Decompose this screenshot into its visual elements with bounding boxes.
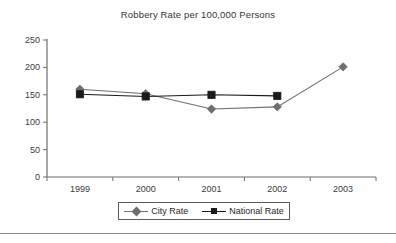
data-point-marker (273, 103, 281, 111)
data-point-marker (274, 92, 281, 99)
y-axis-tick-label: 100 (8, 117, 40, 127)
y-axis-tick-label: 50 (8, 145, 40, 155)
data-point-marker (76, 91, 83, 98)
series-line-national-rate (80, 94, 277, 96)
diamond-marker (124, 206, 148, 217)
x-axis-tick-label: 2000 (122, 184, 170, 194)
legend-item-national-rate[interactable]: National Rate (202, 206, 284, 217)
x-axis-tick-label: 2003 (319, 184, 367, 194)
y-axis-tick-label: 200 (8, 62, 40, 72)
x-axis-tick-label: 2001 (188, 184, 236, 194)
legend-item-city-rate[interactable]: City Rate (124, 206, 188, 217)
data-point-marker (207, 105, 215, 113)
x-axis-tick-label: 1999 (56, 184, 104, 194)
legend-item-label: City Rate (151, 206, 188, 216)
legend-item-label: National Rate (229, 206, 284, 216)
legend-key-marker (211, 208, 217, 214)
x-axis-tick-label: 2002 (253, 184, 301, 194)
robbery-rate-chart: Robbery Rate per 100,000 Persons 0501001… (0, 0, 396, 243)
data-point-marker (142, 93, 149, 100)
series-layer (76, 63, 348, 114)
legend-key-marker (131, 206, 141, 216)
y-axis-tick-label: 150 (8, 90, 40, 100)
y-axis-tick-label: 0 (8, 172, 40, 182)
data-point-marker (339, 63, 347, 71)
bottom-divider (0, 233, 396, 234)
series-line-city-rate (80, 67, 343, 109)
y-axis-tick-label: 250 (8, 35, 40, 45)
legend-entries: City RateNational Rate (119, 203, 289, 219)
chart-legend: City RateNational Rate (118, 202, 290, 220)
data-point-marker (208, 91, 215, 98)
square-marker (202, 206, 226, 217)
